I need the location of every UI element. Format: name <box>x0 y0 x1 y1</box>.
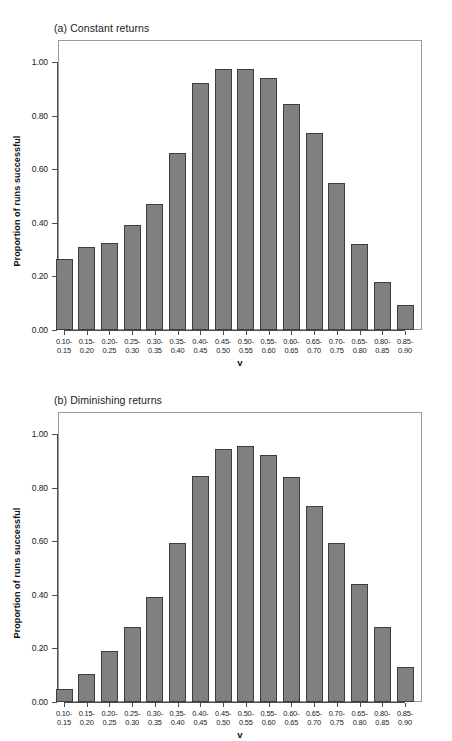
x-tick-mark <box>155 331 156 335</box>
x-tick-mark <box>132 331 133 335</box>
y-tick-mark <box>52 595 57 596</box>
y-tick-mark <box>52 276 57 277</box>
x-tick-mark <box>291 331 292 335</box>
x-tick-mark <box>291 703 292 707</box>
panel-a-x-axis-title: v <box>58 357 422 368</box>
x-tick-mark <box>382 703 383 707</box>
x-tick-mark <box>269 703 270 707</box>
x-tick-mark <box>155 703 156 707</box>
x-tick-mark <box>200 331 201 335</box>
y-tick-mark <box>52 116 57 117</box>
panel-a-title: (a) Constant returns <box>54 22 149 34</box>
x-tick-label-line1: 0.85- <box>385 337 425 346</box>
x-tick-mark <box>200 703 201 707</box>
chart-panel-constant-returns: (a) Constant returns Proportion of runs … <box>0 0 452 372</box>
y-tick-mark <box>52 648 57 649</box>
y-tick-label: 0.80 <box>0 111 48 121</box>
y-tick-mark <box>52 330 57 331</box>
x-tick-label-line2: 0.90 <box>385 346 425 355</box>
x-tick-mark <box>223 703 224 707</box>
chart-panel-diminishing-returns: (b) Diminishing returns Proportion of ru… <box>0 372 452 741</box>
x-tick-mark <box>314 703 315 707</box>
y-tick-label: 1.00 <box>0 57 48 67</box>
x-tick-mark <box>337 703 338 707</box>
y-tick-mark <box>52 541 57 542</box>
x-tick-label-line2: 0.90 <box>385 718 425 727</box>
y-tick-mark <box>52 223 57 224</box>
x-tick-mark <box>405 703 406 707</box>
x-tick-mark <box>64 331 65 335</box>
y-tick-label: 0.20 <box>0 643 48 653</box>
y-tick-label: 0.40 <box>0 590 48 600</box>
y-tick-label: 1.00 <box>0 429 48 439</box>
y-tick-mark <box>52 434 57 435</box>
x-tick-label-line1: 0.85- <box>385 709 425 718</box>
x-tick-mark <box>246 703 247 707</box>
x-tick-mark <box>360 331 361 335</box>
x-tick-mark <box>405 331 406 335</box>
x-tick-mark <box>109 703 110 707</box>
y-tick-label: 0.80 <box>0 483 48 493</box>
x-tick-mark <box>87 331 88 335</box>
x-tick-label: 0.85-0.90 <box>385 709 425 727</box>
x-tick-mark <box>178 331 179 335</box>
x-tick-mark <box>87 703 88 707</box>
x-tick-mark <box>109 331 110 335</box>
y-tick-mark <box>52 169 57 170</box>
y-tick-label: 0.20 <box>0 271 48 281</box>
panel-b-x-axis-line <box>64 702 405 703</box>
panel-a-plot-frame <box>58 40 422 330</box>
panel-b-title: (b) Diminishing returns <box>54 394 162 406</box>
panel-b-plot-frame <box>58 412 422 702</box>
y-tick-label: 0.40 <box>0 218 48 228</box>
panel-b-y-axis-line <box>57 434 58 702</box>
x-tick-mark <box>246 331 247 335</box>
x-tick-mark <box>360 703 361 707</box>
y-tick-mark <box>52 488 57 489</box>
y-tick-label: 0.00 <box>0 325 48 335</box>
y-tick-label: 0.60 <box>0 164 48 174</box>
x-tick-mark <box>337 331 338 335</box>
panel-a-y-axis-line <box>57 62 58 330</box>
x-tick-mark <box>223 331 224 335</box>
x-tick-mark <box>314 331 315 335</box>
x-tick-mark <box>132 703 133 707</box>
x-tick-mark <box>178 703 179 707</box>
panel-a-x-axis-line <box>64 330 405 331</box>
x-tick-mark <box>382 331 383 335</box>
x-tick-mark <box>269 331 270 335</box>
y-tick-label: 0.00 <box>0 697 48 707</box>
y-tick-label: 0.60 <box>0 536 48 546</box>
y-tick-mark <box>52 702 57 703</box>
panel-b-x-axis-title: v <box>58 729 422 740</box>
x-tick-mark <box>64 703 65 707</box>
x-tick-label: 0.85-0.90 <box>385 337 425 355</box>
y-tick-mark <box>52 62 57 63</box>
